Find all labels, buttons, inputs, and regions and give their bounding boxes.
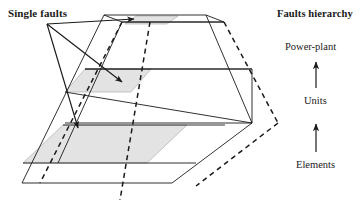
- hierarchy-level-units: Units: [304, 96, 327, 107]
- hierarchy-level-elements: Elements: [296, 160, 335, 171]
- hierarchy-level-power-plant: Power-plant: [285, 42, 336, 53]
- hidden-edge-right-upper: [224, 22, 278, 123]
- faults-hierarchy-title: Faults hierarchy: [277, 9, 353, 20]
- figure-canvas: Single faults Faults hierarchy Power-pla…: [0, 0, 364, 203]
- single-faults-label: Single faults: [8, 8, 67, 19]
- hidden-edge-interior: [120, 22, 150, 200]
- frustum-hidden-edges: [40, 22, 278, 200]
- fault-plane-power-plant: [125, 16, 178, 24]
- shaded-fault-planes: [23, 16, 187, 163]
- arrow-to-elements-plane: [47, 24, 78, 128]
- hidden-edge-right-lower: [196, 123, 278, 186]
- layer-line-3: [65, 92, 252, 123]
